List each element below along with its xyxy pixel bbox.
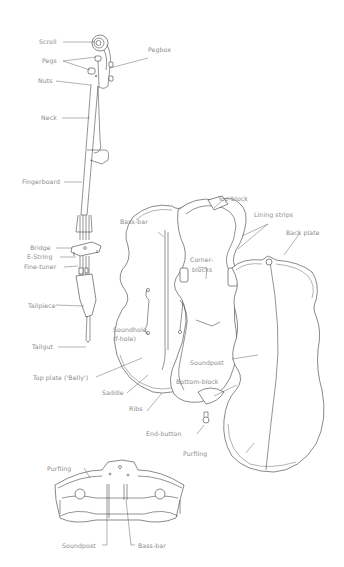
end-button-icon	[203, 412, 209, 423]
label-end-button: End-button	[146, 430, 181, 437]
back-plate-icon	[224, 256, 324, 472]
label-fine-tuner: Fine-tuner	[24, 263, 56, 270]
label-lining-strips: Lining strips	[254, 211, 293, 218]
label-top-block: Top-block	[218, 195, 248, 202]
label-purfling-right: Purfling	[183, 450, 207, 457]
label-bottom-block: Bottom-block	[176, 378, 219, 385]
label-scroll: Scroll	[39, 38, 57, 45]
label-bass-bar: Bass-bar	[120, 218, 148, 225]
label-corner-blocks-1: Corner-	[190, 256, 213, 263]
label-soundhole-2: (f-hole)	[113, 335, 136, 342]
label-saddle: Saddle	[102, 389, 124, 396]
label-tailpiece: Tailpiece	[28, 302, 56, 309]
label-fingerboard: Fingerboard	[22, 178, 60, 185]
label-cross-soundpost: Soundpost	[62, 542, 96, 549]
label-e-string: E-String	[27, 253, 52, 260]
violin-exploded-drawing	[0, 0, 344, 567]
label-ribs: Ribs	[129, 405, 143, 412]
pegs-icon	[88, 56, 113, 81]
cross-section-icon	[55, 460, 184, 522]
label-neck: Neck	[41, 114, 57, 121]
label-corner-blocks-2: blocks	[192, 266, 212, 273]
label-cross-bass-bar: Bass-bar	[138, 542, 166, 549]
label-cross-purfling: Purfling	[47, 465, 71, 472]
tailpiece-icon	[76, 256, 96, 342]
neck-fingerboard-icon	[76, 84, 109, 240]
scroll-icon	[92, 35, 111, 88]
label-soundhole-1: Soundhole	[113, 326, 147, 333]
label-top-plate: Top plate ('Belly')	[33, 374, 88, 381]
label-back-plate: Back plate	[286, 229, 320, 236]
bridge-icon	[71, 242, 101, 256]
label-tailgut: Tailgut	[32, 343, 53, 350]
label-soundpost: Soundpost	[190, 359, 224, 366]
label-pegs: Pegs	[42, 57, 57, 64]
label-bridge: Bridge	[30, 244, 51, 251]
label-nuts: Nuts	[38, 77, 53, 84]
label-pegbox: Pegbox	[148, 46, 171, 53]
